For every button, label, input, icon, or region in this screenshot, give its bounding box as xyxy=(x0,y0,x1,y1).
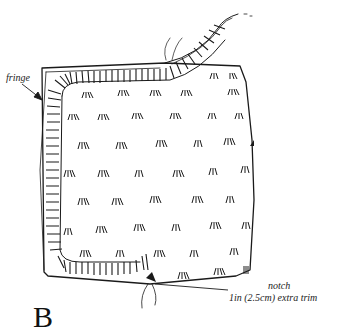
notch-label: notch xyxy=(268,280,290,291)
rug-outline-inner xyxy=(40,68,160,270)
fringe-left xyxy=(46,74,70,250)
trim-label: 1in (2.5cm) extra trim xyxy=(229,292,317,303)
fringe-bottom xyxy=(58,254,148,275)
fringe-inner-edge xyxy=(62,40,225,96)
fringe-label: fringe xyxy=(6,72,30,83)
figure-letter: B xyxy=(33,302,53,331)
notch-leader xyxy=(155,284,228,290)
notch-mark xyxy=(146,272,156,282)
tuft-pattern xyxy=(64,73,250,279)
fringe-inner-edge-left xyxy=(60,96,140,262)
fringe-top xyxy=(70,25,225,84)
fringe-arrow xyxy=(22,84,42,100)
